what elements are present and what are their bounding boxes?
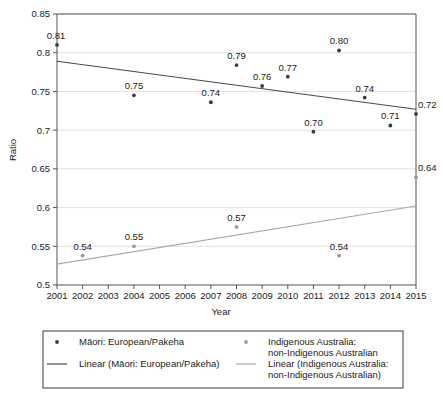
data-point [55,43,59,47]
x-axis-tick-label: 2010 [277,290,298,301]
data-point [337,48,341,52]
x-axis-tick-label: 2006 [175,290,196,301]
data-point-label: 0.79 [227,50,246,61]
y-axis-tick-label: 0.75 [32,86,51,97]
legend-marker-dot [55,340,59,344]
y-axis-tick-label: 0.6 [37,202,50,213]
chart-container: 0.50.550.60.650.70.750.80.85200120022003… [0,0,443,405]
data-point [414,112,418,116]
data-point [363,96,367,100]
ratio-scatter-chart: 0.50.550.60.650.70.750.80.85200120022003… [0,0,443,405]
data-point [414,175,418,179]
x-axis-tick-label: 2012 [329,290,350,301]
y-axis-tick-label: 0.65 [32,163,51,174]
data-point-label: 0.71 [381,110,400,121]
y-axis-tick-label: 0.8 [37,47,50,58]
x-axis-tick-label: 2003 [98,290,119,301]
x-axis-tick-label: 2008 [226,290,247,301]
data-point-label: 0.77 [279,62,298,73]
data-point [209,100,213,104]
x-axis-tick-label: 2009 [252,290,273,301]
data-point [388,124,392,128]
x-axis: 2001200220032004200520062007200820092010… [46,285,426,301]
data-point-label: 0.57 [227,212,246,223]
legend-entry-label: Linear (Māori: European/Pakeha) [79,358,219,369]
data-point [312,130,316,134]
legend-entry[interactable]: Māori: European/Pakeha [55,336,185,347]
legend: Māori: European/PakehaIndigenous Austral… [43,331,403,388]
x-axis-tick-label: 2007 [200,290,221,301]
y-axis-tick-label: 0.5 [37,279,50,290]
legend-marker-dot [244,340,248,344]
x-axis-tick-label: 2001 [46,290,67,301]
data-point-label: 0.70 [304,117,323,128]
data-point-label: 0.54 [73,241,92,252]
x-axis-tick-label: 2014 [380,290,401,301]
data-point-label: 0.54 [330,241,349,252]
x-axis-title: Year [211,306,230,317]
data-point [260,84,264,88]
x-axis-tick-label: 2002 [72,290,93,301]
data-point [132,244,136,248]
data-point [235,225,239,229]
legend-entry-label-line2: non-Indigenous Australian [268,347,378,358]
data-point-label: 0.55 [125,231,144,242]
x-axis-tick-label: 2011 [303,290,323,301]
x-axis-tick-label: 2005 [149,290,170,301]
y-axis-tick-label: 0.55 [32,241,51,252]
data-series: 0.810.750.740.790.760.770.700.800.740.71… [47,30,437,134]
legend-entry-label: Māori: European/Pakeha [79,336,185,347]
data-point-label: 0.75 [125,80,144,91]
data-series: 0.540.550.570.540.64 [73,162,436,257]
data-point [81,254,85,258]
y-axis-title: Ratio [7,139,18,161]
data-point-label: 0.64 [418,162,437,173]
data-point [235,63,239,67]
data-point-label: 0.81 [47,30,66,41]
data-point [132,93,136,97]
data-point [286,75,290,79]
legend-entry[interactable]: Linear (Māori: European/Pakeha) [47,358,219,369]
data-point-label: 0.80 [330,35,349,46]
x-axis-tick-label: 2004 [123,290,144,301]
x-axis-tick-label: 2015 [405,290,426,301]
data-point-label: 0.74 [355,83,374,94]
data-point-label: 0.74 [202,87,221,98]
legend-entry[interactable]: Linear (Indigenous Australia:non-Indigen… [236,358,388,380]
y-axis-tick-label: 0.7 [37,125,50,136]
data-point [337,254,341,258]
legend-entry[interactable]: Indigenous Australia:non-Indigenous Aust… [244,336,378,358]
legend-entry-label: Linear (Indigenous Australia: [268,358,388,369]
y-axis-tick-label: 0.85 [32,8,51,19]
legend-entry-label-line2: non-Indigenous Australian) [268,369,381,380]
legend-entry-label: Indigenous Australia: [268,336,356,347]
y-axis: 0.50.550.60.650.70.750.80.85 [32,8,58,290]
x-axis-tick-label: 2013 [354,290,375,301]
data-point-label: 0.76 [253,71,272,82]
data-point-label: 0.72 [418,99,437,110]
